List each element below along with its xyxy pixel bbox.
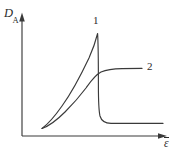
curve-2-label: 2	[147, 61, 153, 72]
y-axis-label: DA	[4, 7, 19, 22]
x-axis-label: ε	[164, 137, 169, 150]
y-axis-arrowhead-icon	[19, 13, 25, 22]
curve-1-label: 1	[93, 15, 99, 26]
figure-plot-area	[0, 0, 181, 156]
figure-container: DA ε 1 2	[0, 0, 181, 156]
x-axis-label-main: ε	[164, 137, 169, 150]
y-axis-label-main: D	[4, 6, 13, 20]
curve-1-path	[42, 34, 163, 129]
y-axis-label-subscript: A	[13, 15, 19, 25]
curve-2-path	[42, 68, 142, 128]
